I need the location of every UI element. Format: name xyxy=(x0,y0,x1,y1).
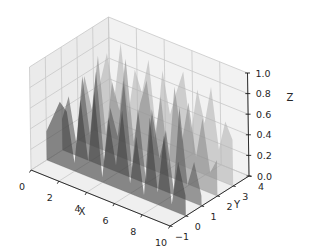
y-tick-label: 3 xyxy=(242,191,248,202)
x-tick-label: 2 xyxy=(47,192,53,203)
z-tick-label: 0.4 xyxy=(256,129,271,140)
z-tick-label: 0.2 xyxy=(257,150,272,161)
x-tick-label: 10 xyxy=(155,237,167,248)
x-tick-label: 6 xyxy=(102,215,108,226)
y-tick-label: −1 xyxy=(175,231,189,242)
x-tick-label: 0 xyxy=(19,181,25,192)
z-tick-label: 1.0 xyxy=(256,68,271,79)
x-axis-label: X xyxy=(79,206,86,217)
x-tick-label: 8 xyxy=(130,226,136,237)
y-tick-label: 2 xyxy=(226,201,232,212)
z-axis-label: Z xyxy=(287,92,294,103)
y-tick-label: 4 xyxy=(258,181,264,192)
z-tick-label: 0.8 xyxy=(256,88,271,99)
y-axis-label: Y xyxy=(233,199,241,210)
z-tick-label: 0.0 xyxy=(257,171,272,182)
y-tick-label: 0 xyxy=(195,221,201,232)
z-tick-label: 0.6 xyxy=(256,109,271,120)
3d-polygon-chart: 0246810 −101234 0.00.20.40.60.81.0 X Y Z xyxy=(0,0,309,251)
y-tick-label: 1 xyxy=(211,211,217,222)
